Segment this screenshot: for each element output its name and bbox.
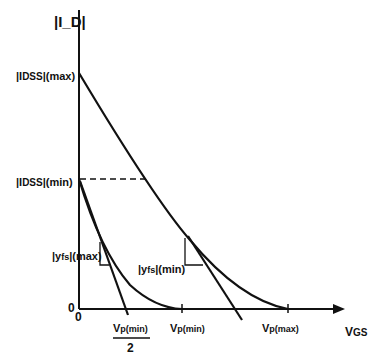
yfs-max-label: |yfs|(max)	[52, 250, 102, 262]
idss-max-label: |IDSS|(max)	[16, 70, 75, 82]
idss-min-label: |IDSS|(min)	[16, 176, 73, 188]
vp-max-label: Vp(max)	[262, 322, 299, 334]
min-transfer-curve	[79, 179, 182, 309]
transfer-characteristic-diagram: |I_D| |IDSS|(max) |IDSS|(min) |yfs|(max)…	[0, 0, 378, 359]
origin-label: 0	[68, 301, 75, 315]
origin-label-2: 0	[75, 310, 82, 324]
vp-min-half-label: Vp(min)	[113, 322, 148, 334]
vp-min-half-denominator: 2	[127, 341, 134, 355]
y-axis-label: |I_D|	[54, 13, 86, 30]
yfs-max-tangent	[80, 181, 128, 315]
yfs-min-label: |yfs|(min)	[138, 263, 186, 275]
x-axis-label: VGS	[345, 325, 368, 339]
x-axis-arrow-icon	[333, 304, 345, 314]
yfs-min-tangent	[188, 236, 242, 320]
vp-min-label: Vp(min)	[170, 322, 205, 334]
